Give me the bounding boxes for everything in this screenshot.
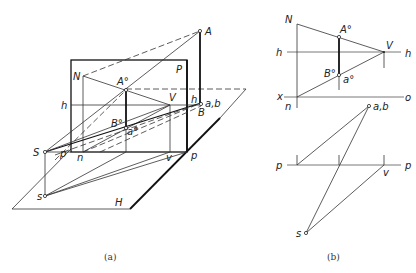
label-adeg-b: a° [343, 74, 354, 85]
label-ab: a,b [205, 98, 221, 109]
ray-S-B [45, 103, 201, 152]
label-v-b: v [383, 167, 390, 178]
ray-s-a [45, 152, 126, 196]
point-s [43, 194, 46, 197]
label-Adeg-b: A° [339, 24, 352, 35]
label-Bdeg-b: B° [324, 68, 336, 79]
figure-a: A N P A° V h h a,b B B° a° S p n v p s H… [12, 26, 246, 262]
h-plane-right-edge-upper [220, 89, 246, 118]
label-n-b: n [285, 101, 291, 112]
line-ab-s [306, 106, 369, 233]
label-s: s [37, 191, 42, 202]
label-S: S [33, 147, 40, 158]
label-V-b: V [386, 40, 394, 51]
label-h-right-b: h [405, 48, 411, 59]
line-ab-p1 [297, 106, 369, 165]
line-v-s [306, 165, 384, 233]
ray-n-ab [83, 103, 201, 152]
ray-S-A [45, 31, 200, 152]
perspective-diagram: A N P A° V h h a,b B B° a° S p n v p s H… [0, 0, 416, 273]
label-H: H [115, 197, 123, 208]
caption-a: (a) [104, 252, 116, 262]
label-Adeg: A° [116, 76, 129, 87]
label-x: x [276, 91, 283, 102]
label-p-left: p [59, 148, 66, 159]
ray-dash-b [100, 106, 201, 152]
point-Bdeg-b [337, 73, 340, 76]
label-N-b: N [285, 14, 293, 25]
point-S [43, 150, 46, 153]
label-P: P [176, 64, 183, 75]
point-Adeg [124, 88, 127, 91]
label-s-b: s [296, 228, 301, 239]
label-B: B [198, 107, 205, 118]
label-h-left-b: h [276, 47, 282, 58]
point-Adeg-b [337, 35, 340, 38]
label-ab-b: a,b [373, 101, 389, 112]
point-s-b [304, 231, 307, 234]
h-plane-right-edge [130, 118, 220, 209]
label-p-left-b: p [275, 160, 282, 171]
point-ab-b [367, 104, 370, 107]
label-p-right: p [190, 150, 197, 161]
label-V: V [169, 92, 177, 103]
label-A: A [204, 26, 212, 37]
point-A [198, 29, 201, 32]
label-Bdeg: B° [111, 118, 123, 129]
label-N: N [73, 71, 81, 82]
caption-b: (b) [327, 252, 340, 262]
label-h-right: h [191, 94, 197, 105]
label-p-right-b: p [404, 160, 411, 171]
label-n: n [77, 152, 83, 163]
ray-N-A [83, 31, 200, 76]
label-v: v [166, 152, 173, 163]
label-h-left: h [61, 100, 67, 111]
figure-b: N A° V h h B° a° x o n a,b p p v s (b) [275, 14, 411, 262]
label-adeg: a° [127, 126, 138, 137]
point-ab [199, 102, 202, 105]
point-V-b [383, 51, 385, 53]
label-o: o [405, 92, 411, 103]
